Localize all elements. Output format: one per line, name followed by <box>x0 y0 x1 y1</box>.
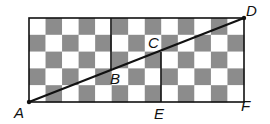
grid-cell <box>178 68 195 85</box>
grid-cell <box>112 18 129 35</box>
grid-cell <box>178 85 195 102</box>
grid-cell <box>29 35 46 52</box>
grid-cell <box>79 35 96 52</box>
grid-cell <box>29 68 46 85</box>
grid-cell <box>95 18 112 35</box>
geometry-figure: A B C D E F <box>0 0 270 124</box>
label-e: E <box>154 105 165 122</box>
grid-cell <box>46 18 63 35</box>
point-a-dot <box>27 100 31 104</box>
grid-cell <box>112 35 129 52</box>
grid-cell <box>145 85 162 102</box>
grid-cell <box>145 18 162 35</box>
grid-cell <box>95 85 112 102</box>
grid-cell <box>194 85 211 102</box>
grid-cell <box>128 35 145 52</box>
grid-cell <box>79 18 96 35</box>
label-f: F <box>241 97 251 114</box>
grid-cell <box>145 68 162 85</box>
grid-cell <box>46 52 63 69</box>
grid-cell <box>227 68 244 85</box>
grid-cell <box>211 85 228 102</box>
grid-cell <box>62 52 79 69</box>
grid-cell <box>161 85 178 102</box>
grid-cell <box>211 68 228 85</box>
grid-cell <box>79 52 96 69</box>
grid-cell <box>46 68 63 85</box>
grid-cell <box>211 35 228 52</box>
grid-cell <box>178 18 195 35</box>
grid-cell <box>79 85 96 102</box>
grid-cell <box>194 68 211 85</box>
grid-cell <box>227 35 244 52</box>
label-d: D <box>246 2 257 19</box>
label-b: B <box>110 70 120 87</box>
grid-cell <box>112 85 129 102</box>
grid-cell <box>46 35 63 52</box>
label-a: A <box>13 104 24 121</box>
grid-cell <box>161 68 178 85</box>
grid-cell <box>95 35 112 52</box>
grid-cell <box>161 52 178 69</box>
label-c: C <box>148 34 159 51</box>
grid-cell <box>128 18 145 35</box>
grid-cell <box>227 52 244 69</box>
grid-cell <box>128 68 145 85</box>
grid-cell <box>128 85 145 102</box>
grid-cell <box>29 52 46 69</box>
grid-cell <box>178 52 195 69</box>
grid-cell <box>161 18 178 35</box>
grid-cell <box>95 52 112 69</box>
grid-cell <box>62 18 79 35</box>
grid-cell <box>194 52 211 69</box>
grid-cell <box>29 18 46 35</box>
grid-cell <box>62 35 79 52</box>
grid-cell <box>211 52 228 69</box>
